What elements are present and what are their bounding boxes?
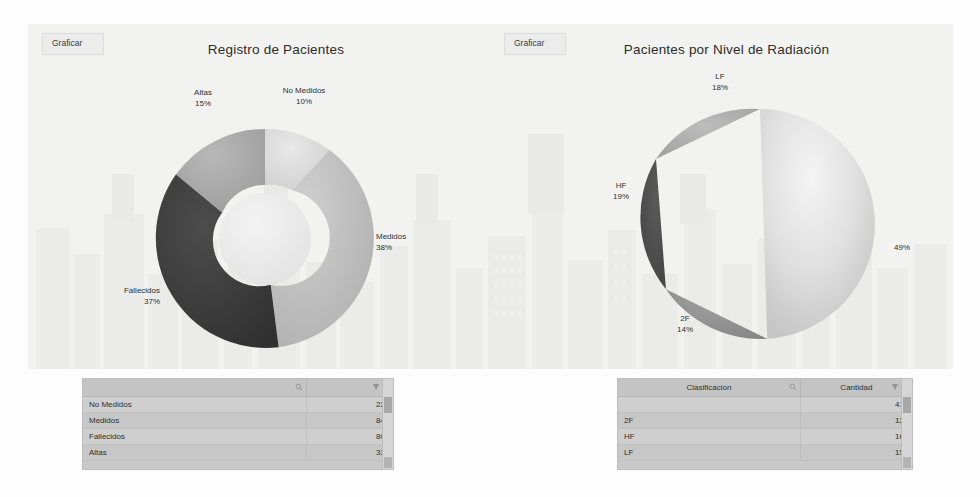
table-header-row: Clasificacion Cantidad [618, 379, 912, 396]
donut-chart-registro [28, 24, 490, 369]
cell-label: Altas [83, 444, 306, 460]
table-row[interactable]: Fallecidos 80 [83, 428, 393, 444]
slice-label-unlabeled: 49% [894, 243, 930, 254]
table-body: 41 2F 12 HF 16 LF 15 [618, 396, 912, 460]
slice-label-fallecidos: Fallecidos 37% [88, 286, 160, 308]
cell-label: No Medidos [83, 396, 306, 412]
filter-icon[interactable] [891, 383, 899, 391]
cell-label: Fallecidos [83, 428, 306, 444]
table-row[interactable]: No Medidos 22 [83, 396, 393, 412]
search-icon[interactable] [789, 383, 797, 391]
cell-value: 22 [306, 396, 393, 412]
cell-value: 80 [306, 428, 393, 444]
cell-value: 16 [800, 428, 912, 444]
column-header-cantidad[interactable] [306, 379, 393, 396]
cell-value: 41 [800, 396, 912, 412]
cell-label: LF [618, 444, 800, 460]
donut-hole [219, 193, 311, 285]
filter-icon[interactable] [372, 383, 380, 391]
slice-label-hf: HF 19% [598, 181, 644, 203]
pie-slice-hf [640, 159, 666, 289]
pie-slice-lf [656, 109, 760, 159]
table-row[interactable]: LF 15 [618, 444, 912, 460]
column-header-clasificacion[interactable]: Clasificacion [618, 379, 800, 396]
slice-label-no-medidos: No Medidos 10% [266, 86, 342, 108]
cell-value: 12 [800, 412, 912, 428]
app-root: Graficar Registro de Pacientes [0, 0, 980, 497]
table-header-row [83, 379, 393, 396]
table-scrollbar[interactable] [382, 379, 393, 469]
table-row[interactable]: 41 [618, 396, 912, 412]
scrollbar-down-button[interactable] [384, 457, 392, 468]
cell-label: 2F [618, 412, 800, 428]
scrollbar-down-button[interactable] [903, 457, 911, 468]
cell-label: HF [618, 428, 800, 444]
registro-table[interactable]: No Medidos 22 Medidos 84 Fallecidos 80 A… [82, 378, 394, 470]
cell-label [618, 396, 800, 412]
table-row[interactable]: Altas 33 [83, 444, 393, 460]
cell-value: 15 [800, 444, 912, 460]
table-body: No Medidos 22 Medidos 84 Fallecidos 80 A… [83, 396, 393, 460]
panel-nivel-radiacion: Graficar Pacientes por Nivel de Radiació… [490, 24, 953, 369]
search-icon[interactable] [295, 383, 303, 391]
cell-value: 84 [306, 412, 393, 428]
column-header-concepto[interactable] [83, 379, 306, 396]
clasificacion-table[interactable]: Clasificacion Cantidad [617, 378, 913, 470]
column-header-cantidad[interactable]: Cantidad [800, 379, 912, 396]
chart-band: Graficar Registro de Pacientes [28, 24, 953, 369]
slice-label-lf: LF 18% [690, 72, 750, 94]
scrollbar-thumb[interactable] [384, 397, 392, 413]
table-row[interactable]: HF 16 [618, 428, 912, 444]
slice-label-altas: Altas 15% [173, 88, 233, 110]
cell-label: Medidos [83, 412, 306, 428]
panel-registro-pacientes: Graficar Registro de Pacientes [28, 24, 490, 369]
slice-label-2f: 2F 14% [662, 314, 708, 336]
table-row[interactable]: Medidos 84 [83, 412, 393, 428]
pie-slice-unlabeled [760, 109, 875, 339]
slice-label-medidos: Medidos 38% [376, 232, 442, 254]
table-row[interactable]: 2F 12 [618, 412, 912, 428]
table-scrollbar[interactable] [901, 379, 912, 469]
cell-value: 33 [306, 444, 393, 460]
scrollbar-thumb[interactable] [903, 397, 911, 413]
